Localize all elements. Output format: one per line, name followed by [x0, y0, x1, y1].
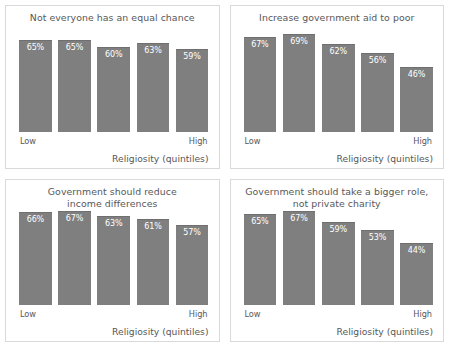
- bar[interactable]: 59%: [322, 222, 355, 305]
- bar-value-label: 59%: [176, 52, 209, 61]
- bar-value-label: 65%: [244, 217, 277, 226]
- bar-value-label: 67%: [283, 214, 316, 223]
- bar[interactable]: 44%: [400, 243, 433, 305]
- bar[interactable]: 66%: [19, 212, 52, 305]
- x-axis-ticks: Low High: [244, 309, 434, 321]
- bar-value-label: 46%: [400, 70, 433, 79]
- bar[interactable]: 59%: [176, 49, 209, 132]
- x-tick-high: High: [413, 309, 432, 319]
- bar-value-label: 44%: [400, 246, 433, 255]
- bar[interactable]: 65%: [58, 40, 91, 131]
- x-tick-high: High: [189, 136, 208, 146]
- bar[interactable]: 62%: [322, 44, 355, 131]
- plot-area: 66% 67% 63% 61% 57%: [19, 200, 209, 306]
- bar-series: 65% 67% 59% 53% 44%: [244, 200, 434, 306]
- bar-value-label: 53%: [361, 233, 394, 242]
- bar-value-label: 56%: [361, 56, 394, 65]
- bar-value-label: 63%: [97, 219, 130, 228]
- chart-panel-2: Increase government aid to poor 67% 69% …: [230, 5, 445, 169]
- x-tick-high: High: [413, 136, 432, 146]
- bar[interactable]: 53%: [361, 230, 394, 305]
- bar[interactable]: 67%: [244, 37, 277, 131]
- x-axis-label: Religiosity (quintiles): [112, 326, 208, 337]
- bar-value-label: 67%: [58, 214, 91, 223]
- x-axis-ticks: Low High: [19, 309, 209, 321]
- bar-value-label: 61%: [137, 222, 170, 231]
- bar-value-label: 65%: [58, 43, 91, 52]
- bar-value-label: 67%: [244, 40, 277, 49]
- x-tick-high: High: [189, 309, 208, 319]
- x-axis-label: Religiosity (quintiles): [112, 153, 208, 164]
- bar-value-label: 62%: [322, 47, 355, 56]
- bar[interactable]: 67%: [58, 211, 91, 305]
- panel-title: Increase government aid to poor: [239, 12, 436, 24]
- plot-area: 65% 67% 59% 53% 44%: [244, 200, 434, 306]
- bar[interactable]: 57%: [176, 225, 209, 305]
- x-axis-label: Religiosity (quintiles): [337, 326, 433, 337]
- bar[interactable]: 65%: [244, 214, 277, 305]
- panel-title: Not everyone has an equal chance: [14, 12, 211, 24]
- x-tick-low: Low: [244, 309, 260, 319]
- bar-value-label: 57%: [176, 228, 209, 237]
- bar-value-label: 60%: [97, 50, 130, 59]
- bar-value-label: 66%: [19, 215, 52, 224]
- bar[interactable]: 69%: [283, 34, 316, 131]
- x-axis-ticks: Low High: [19, 136, 209, 148]
- bar-series: 67% 69% 62% 56% 46%: [244, 26, 434, 132]
- bar-series: 66% 67% 63% 61% 57%: [19, 200, 209, 306]
- bar-series: 65% 65% 60% 63% 59%: [19, 26, 209, 132]
- bar[interactable]: 63%: [97, 216, 130, 305]
- bar-value-label: 59%: [322, 225, 355, 234]
- chart-panel-1: Not everyone has an equal chance 65% 65%…: [5, 5, 220, 169]
- bar[interactable]: 65%: [19, 40, 52, 131]
- bar[interactable]: 46%: [400, 67, 433, 132]
- chart-panel-3: Government should reduce income differen…: [5, 179, 220, 343]
- chart-figure: Not everyone has an equal chance 65% 65%…: [0, 0, 449, 347]
- x-tick-low: Low: [244, 136, 260, 146]
- bar[interactable]: 60%: [97, 47, 130, 131]
- bar[interactable]: 61%: [137, 219, 170, 305]
- bar-value-label: 63%: [137, 46, 170, 55]
- bar-value-label: 69%: [283, 37, 316, 46]
- bar[interactable]: 67%: [283, 211, 316, 305]
- plot-area: 67% 69% 62% 56% 46%: [244, 26, 434, 132]
- plot-area: 65% 65% 60% 63% 59%: [19, 26, 209, 132]
- x-tick-low: Low: [20, 309, 36, 319]
- x-axis-ticks: Low High: [244, 136, 434, 148]
- chart-panel-4: Government should take a bigger role, no…: [230, 179, 445, 343]
- bar[interactable]: 63%: [137, 43, 170, 132]
- x-axis-label: Religiosity (quintiles): [337, 153, 433, 164]
- x-tick-low: Low: [20, 136, 36, 146]
- bar[interactable]: 56%: [361, 53, 394, 132]
- bar-value-label: 65%: [19, 43, 52, 52]
